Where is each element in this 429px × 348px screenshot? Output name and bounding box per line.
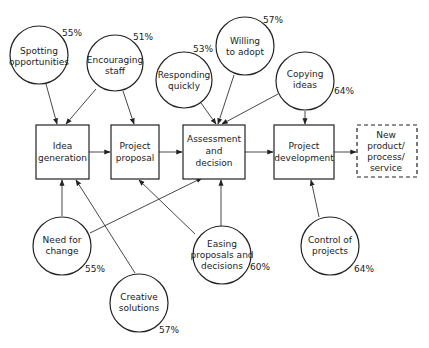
- process-box-idea: Idea generation: [36, 125, 89, 179]
- svg-text:proposal: proposal: [116, 153, 155, 163]
- factor-responding: Responding quickly 53%: [156, 44, 213, 108]
- responding-percent: 53%: [193, 44, 213, 54]
- svg-text:Project: Project: [289, 141, 320, 151]
- factor-spotting: Spotting opportunities 55%: [9, 26, 82, 84]
- process-box-proposal: Project proposal: [111, 125, 159, 179]
- spotting-percent: 55%: [62, 28, 82, 38]
- process-box-output: New product/ process/ service: [357, 125, 417, 177]
- control-percent: 64%: [354, 264, 374, 274]
- svg-text:projects: projects: [312, 246, 348, 256]
- encouraging-line-2: staff: [105, 66, 126, 76]
- development-line-1: Project: [289, 141, 320, 151]
- output-line-1: New: [376, 130, 396, 140]
- output-line-2: product/: [367, 141, 406, 151]
- responding-line-1: Responding: [158, 70, 211, 80]
- process-box-assessment: Assessment and decision: [183, 125, 245, 179]
- svg-text:Encouraging: Encouraging: [87, 55, 143, 65]
- arrow-responding-to-assessment: [201, 103, 216, 124]
- svg-text:Idea: Idea: [53, 141, 72, 151]
- svg-text:Creative: Creative: [120, 292, 158, 302]
- svg-text:Willing: Willing: [230, 36, 260, 46]
- svg-text:staff: staff: [105, 66, 126, 76]
- arrow-encouraging-to-proposal: [123, 91, 134, 124]
- output-line-4: service: [370, 163, 403, 173]
- creative-line-1: Creative: [120, 292, 158, 302]
- svg-text:Need for: Need for: [43, 235, 82, 245]
- factor-control: Control of projects 64%: [301, 217, 374, 275]
- process-box-development: Project development: [274, 125, 334, 179]
- output-line-3: process/: [367, 152, 406, 162]
- svg-text:60%: 60%: [250, 262, 270, 272]
- easing-line-1: Easing: [207, 239, 237, 249]
- svg-text:57%: 57%: [159, 325, 179, 335]
- svg-text:64%: 64%: [354, 264, 374, 274]
- proposal-line-1: Project: [120, 141, 151, 151]
- svg-text:Assessment: Assessment: [187, 134, 241, 144]
- development-line-2: development: [274, 153, 334, 163]
- svg-text:development: development: [274, 153, 334, 163]
- svg-text:product/: product/: [367, 141, 406, 151]
- svg-text:Copying: Copying: [287, 69, 324, 79]
- assessment-line-2: and: [206, 146, 223, 156]
- svg-text:64%: 64%: [334, 86, 354, 96]
- responding-line-2: quickly: [168, 81, 201, 91]
- assessment-line-1: Assessment: [187, 134, 241, 144]
- control-line-2: projects: [312, 246, 348, 256]
- copying-percent: 64%: [334, 86, 354, 96]
- svg-text:53%: 53%: [193, 44, 213, 54]
- svg-text:57%: 57%: [263, 15, 283, 25]
- encouraging-percent: 51%: [133, 32, 153, 42]
- easing-percent: 60%: [250, 262, 270, 272]
- arrow-willing-to-assessment: [218, 75, 234, 124]
- svg-text:service: service: [370, 163, 403, 173]
- creative-percent: 57%: [159, 325, 179, 335]
- factor-need: Need for change 55%: [33, 217, 105, 275]
- willing-line-1: Willing: [230, 36, 260, 46]
- need-percent: 55%: [85, 264, 105, 274]
- svg-text:proposals and: proposals and: [190, 250, 253, 260]
- svg-text:Control of: Control of: [308, 235, 353, 245]
- svg-text:decisions: decisions: [201, 261, 243, 271]
- innovation-process-diagram: Idea generation Project proposal Assessm…: [0, 0, 429, 348]
- svg-text:Responding: Responding: [158, 70, 211, 80]
- svg-text:55%: 55%: [62, 28, 82, 38]
- idea-line-1: Idea: [53, 141, 72, 151]
- need-line-2: change: [45, 246, 79, 256]
- easing-line-3: decisions: [201, 261, 243, 271]
- arrow-spotting-to-idea: [46, 84, 57, 124]
- svg-text:quickly: quickly: [168, 81, 201, 91]
- assessment-line-3: decision: [195, 158, 232, 168]
- willing-line-2: to adopt: [226, 47, 264, 57]
- svg-text:Project: Project: [120, 141, 151, 151]
- spotting-line-1: Spotting: [20, 46, 58, 56]
- idea-line-2: generation: [38, 153, 87, 163]
- svg-text:ideas: ideas: [293, 80, 317, 90]
- encouraging-line-1: Encouraging: [87, 55, 143, 65]
- svg-text:decision: decision: [195, 158, 232, 168]
- factor-creative: Creative solutions 57%: [110, 274, 179, 335]
- easing-line-2: proposals and: [190, 250, 253, 260]
- svg-text:55%: 55%: [85, 264, 105, 274]
- svg-text:generation: generation: [38, 153, 87, 163]
- svg-text:Spotting: Spotting: [20, 46, 58, 56]
- svg-text:solutions: solutions: [119, 303, 160, 313]
- arrow-encouraging-to-idea: [66, 89, 96, 124]
- need-line-1: Need for: [43, 235, 82, 245]
- willing-percent: 57%: [263, 15, 283, 25]
- factor-encouraging: Encouraging staff 51%: [87, 32, 154, 91]
- arrow-copying-to-assessment: [222, 94, 278, 124]
- svg-text:change: change: [45, 246, 79, 256]
- factor-willing: Willing to adopt 57%: [216, 15, 283, 75]
- svg-text:51%: 51%: [133, 32, 153, 42]
- arrow-control-to-development: [311, 180, 319, 217]
- svg-text:opportunities: opportunities: [9, 57, 69, 67]
- copying-line-1: Copying: [287, 69, 324, 79]
- svg-text:and: and: [206, 146, 223, 156]
- creative-line-2: solutions: [119, 303, 160, 313]
- svg-text:New: New: [376, 130, 396, 140]
- arrow-easing-to-proposal: [139, 180, 195, 234]
- copying-line-2: ideas: [293, 80, 317, 90]
- proposal-line-2: proposal: [116, 153, 155, 163]
- control-line-1: Control of: [308, 235, 353, 245]
- svg-text:process/: process/: [367, 152, 406, 162]
